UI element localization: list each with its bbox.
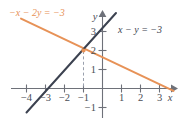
x-tick-label-1: 1 xyxy=(119,92,124,103)
y-tick-label-1: 1 xyxy=(91,64,96,75)
x-tick-label-2: 2 xyxy=(138,92,143,103)
y-tick-label-3: 3 xyxy=(91,26,96,37)
x-tick-label-3: 3 xyxy=(157,92,162,103)
y-tick-label-2: 2 xyxy=(91,45,96,56)
x-tick-label--2: −2 xyxy=(59,92,70,103)
y-tick-label--1: −1 xyxy=(85,102,96,113)
orange-line-equation-label: −x − 2y = −3 xyxy=(9,7,65,18)
coordinate-plane-svg: −4 −3 −2 −1 1 2 3 3 2 1 −1 x y x − y = −… xyxy=(0,0,181,125)
x-tick-label--4: −4 xyxy=(21,92,33,103)
dark-line-equation-label: x − y = −3 xyxy=(117,24,162,35)
graph-figure: −4 −3 −2 −1 1 2 3 3 2 1 −1 x y x − y = −… xyxy=(0,0,181,125)
x-axis-label: x xyxy=(167,92,173,103)
intersection-point-marker xyxy=(81,48,85,52)
x-tick-label--3: −3 xyxy=(40,92,51,103)
y-axis-arrowhead xyxy=(99,10,107,17)
y-axis-label: y xyxy=(92,11,98,22)
